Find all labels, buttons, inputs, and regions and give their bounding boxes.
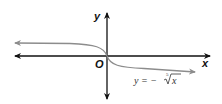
radicand: x bbox=[171, 75, 177, 86]
root-index: 5 bbox=[166, 72, 169, 77]
equation-label: y = − 5 x bbox=[133, 72, 181, 86]
origin-label: O bbox=[95, 58, 104, 70]
curve-right-branch bbox=[107, 56, 195, 72]
graph: y O x y = − 5 x bbox=[0, 0, 222, 104]
y-axis-label: y bbox=[93, 10, 101, 22]
curve-left-branch bbox=[15, 43, 107, 56]
x-axis-label: x bbox=[201, 57, 209, 69]
equation-prefix: y = − bbox=[133, 75, 157, 86]
